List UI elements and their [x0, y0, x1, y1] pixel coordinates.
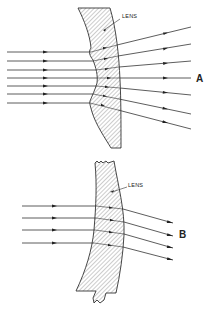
panel-a-label: A — [196, 73, 203, 84]
incoming-arrows-a — [43, 51, 48, 105]
panel-a: LENS A — [7, 8, 203, 148]
outgoing-rays-b — [123, 209, 173, 260]
outgoing-rays-a — [117, 27, 191, 129]
incoming-arrows-b — [52, 205, 57, 245]
incoming-rays-a — [7, 52, 97, 103]
lens-b-label: LENS — [128, 182, 143, 188]
panel-b: LENS B — [22, 161, 186, 303]
lens-b-body — [76, 161, 124, 303]
outgoing-arrows-b — [167, 220, 173, 260]
incoming-rays-b — [22, 206, 96, 243]
lens-a-label: LENS — [122, 13, 137, 19]
lens-refraction-diagram: LENS A — [0, 0, 208, 310]
panel-b-label: B — [179, 229, 186, 240]
